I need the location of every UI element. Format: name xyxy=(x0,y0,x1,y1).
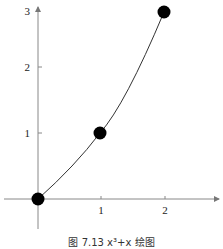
data-point xyxy=(32,193,45,206)
figure-caption: 图 7.13 x³+x 绘图 xyxy=(0,234,223,249)
y-tick-label: 2 xyxy=(25,61,31,73)
data-point xyxy=(158,6,171,19)
y-tick-label: 1 xyxy=(25,127,31,139)
x-tick-label: 2 xyxy=(162,204,168,216)
y-ticks: 1 2 3 xyxy=(25,5,43,139)
data-point xyxy=(94,127,107,140)
data-line xyxy=(38,12,164,199)
y-tick-label: 3 xyxy=(25,5,31,17)
x-tick-label: 1 xyxy=(98,204,104,216)
